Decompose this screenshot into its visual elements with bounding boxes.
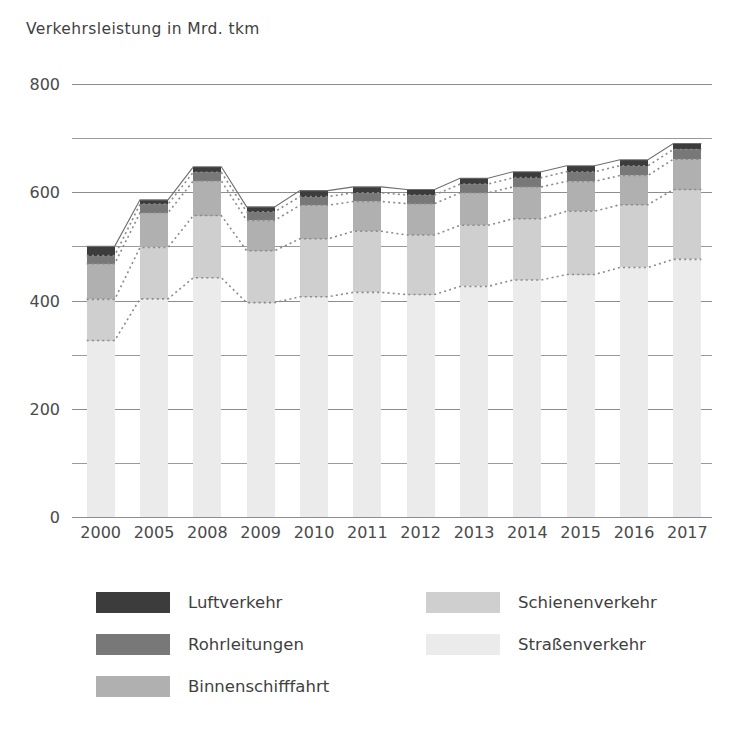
x-axis-tick-label: 2000 bbox=[80, 523, 121, 542]
bar-stack[interactable] bbox=[87, 84, 115, 517]
legend-color-swatch bbox=[96, 634, 170, 655]
bar-segment[interactable] bbox=[247, 251, 275, 303]
legend-color-swatch bbox=[96, 676, 170, 697]
bar-stack[interactable] bbox=[567, 84, 595, 517]
bar-segment[interactable] bbox=[353, 231, 381, 292]
bar-segment[interactable] bbox=[193, 167, 221, 172]
bar-segment[interactable] bbox=[567, 211, 595, 274]
gridline bbox=[72, 192, 712, 193]
bar-segment[interactable] bbox=[193, 172, 221, 181]
bar-segment[interactable] bbox=[247, 303, 275, 517]
bar-segment[interactable] bbox=[87, 256, 115, 264]
bar-segment[interactable] bbox=[193, 216, 221, 278]
x-axis-tick-label: 2009 bbox=[240, 523, 281, 542]
bar-segment[interactable] bbox=[353, 193, 381, 202]
bar-segment[interactable] bbox=[140, 299, 168, 517]
bar-segment[interactable] bbox=[620, 160, 648, 166]
bar-segment[interactable] bbox=[140, 213, 168, 248]
plot-area bbox=[72, 84, 712, 517]
gridline bbox=[72, 246, 712, 247]
gridline bbox=[72, 138, 712, 139]
bar-segment[interactable] bbox=[353, 187, 381, 193]
legend-item[interactable]: Luftverkehr bbox=[96, 592, 282, 613]
bar-segment[interactable] bbox=[567, 275, 595, 517]
bar-segment[interactable] bbox=[460, 178, 488, 184]
stack-connector-line bbox=[87, 144, 702, 247]
bar-segment[interactable] bbox=[87, 299, 115, 340]
legend-item[interactable]: Straßenverkehr bbox=[426, 634, 646, 655]
bar-segment[interactable] bbox=[300, 197, 328, 206]
legend-item-label: Rohrleitungen bbox=[188, 635, 304, 654]
bar-segment[interactable] bbox=[673, 144, 701, 150]
bar-segment[interactable] bbox=[567, 166, 595, 172]
bar-segment[interactable] bbox=[513, 178, 541, 187]
bar-segment[interactable] bbox=[460, 193, 488, 225]
bar-segment[interactable] bbox=[247, 220, 275, 250]
bar-segment[interactable] bbox=[140, 247, 168, 298]
chart-title: Verkehrsleistung in Mrd. tkm bbox=[26, 20, 260, 38]
bar-segment[interactable] bbox=[407, 235, 435, 295]
bar-segment[interactable] bbox=[300, 239, 328, 297]
bar-stack[interactable] bbox=[300, 84, 328, 517]
x-axis-tick-label: 2011 bbox=[347, 523, 388, 542]
bar-stack[interactable] bbox=[140, 84, 168, 517]
gridline bbox=[72, 409, 712, 410]
bar-segment[interactable] bbox=[620, 175, 648, 204]
bar-segment[interactable] bbox=[193, 278, 221, 517]
bar-segment[interactable] bbox=[567, 181, 595, 211]
bar-segment[interactable] bbox=[513, 219, 541, 280]
bar-segment[interactable] bbox=[673, 190, 701, 260]
legend-color-swatch bbox=[96, 592, 170, 613]
bar-segment[interactable] bbox=[193, 181, 221, 216]
bar-stack[interactable] bbox=[193, 84, 221, 517]
bar-segment[interactable] bbox=[673, 259, 701, 517]
y-axis-tick-label: 600 bbox=[2, 183, 60, 202]
bar-stack[interactable] bbox=[460, 84, 488, 517]
bar-segment[interactable] bbox=[567, 172, 595, 182]
gridline bbox=[72, 84, 712, 85]
bar-segment[interactable] bbox=[407, 204, 435, 235]
y-axis-tick-label: 400 bbox=[2, 291, 60, 310]
bar-segment[interactable] bbox=[620, 205, 648, 268]
bar-stack[interactable] bbox=[620, 84, 648, 517]
legend-item[interactable]: Rohrleitungen bbox=[96, 634, 304, 655]
x-axis-tick-label: 2014 bbox=[507, 523, 548, 542]
bar-segment[interactable] bbox=[513, 280, 541, 517]
bar-segment[interactable] bbox=[407, 195, 435, 204]
bar-segment[interactable] bbox=[460, 286, 488, 517]
x-axis-tick-label: 2013 bbox=[454, 523, 495, 542]
bar-segment[interactable] bbox=[407, 190, 435, 195]
legend-item[interactable]: Schienenverkehr bbox=[426, 592, 657, 613]
bar-segment[interactable] bbox=[247, 207, 275, 212]
bar-segment[interactable] bbox=[673, 149, 701, 159]
bar-segment[interactable] bbox=[247, 212, 275, 221]
bar-segment[interactable] bbox=[353, 201, 381, 231]
gridline bbox=[72, 355, 712, 356]
bar-segment[interactable] bbox=[300, 297, 328, 517]
bar-segment[interactable] bbox=[407, 295, 435, 517]
bar-segment[interactable] bbox=[87, 341, 115, 517]
bar-stack[interactable] bbox=[353, 84, 381, 517]
bar-stack[interactable] bbox=[247, 84, 275, 517]
bar-segment[interactable] bbox=[140, 204, 168, 213]
bar-segment[interactable] bbox=[620, 267, 648, 517]
bar-segment[interactable] bbox=[673, 159, 701, 189]
bar-segment[interactable] bbox=[87, 264, 115, 300]
bar-segment[interactable] bbox=[513, 187, 541, 219]
bar-segment[interactable] bbox=[620, 166, 648, 176]
bar-segment[interactable] bbox=[460, 225, 488, 286]
bar-segment[interactable] bbox=[460, 184, 488, 193]
legend-item[interactable]: Binnenschifffahrt bbox=[96, 676, 329, 697]
bar-segment[interactable] bbox=[513, 172, 541, 178]
bar-segment[interactable] bbox=[140, 200, 168, 204]
bar-segment[interactable] bbox=[300, 205, 328, 239]
stack-connector-line bbox=[87, 159, 702, 263]
bar-segment[interactable] bbox=[87, 246, 115, 255]
bar-stack[interactable] bbox=[407, 84, 435, 517]
bar-stack[interactable] bbox=[513, 84, 541, 517]
bar-segment[interactable] bbox=[300, 191, 328, 197]
y-axis-tick-label: 200 bbox=[2, 399, 60, 418]
bar-segment[interactable] bbox=[353, 292, 381, 517]
x-axis-tick-label: 2010 bbox=[294, 523, 335, 542]
bar-stack[interactable] bbox=[673, 84, 701, 517]
